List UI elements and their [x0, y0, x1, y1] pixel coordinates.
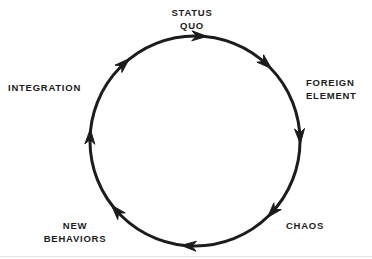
node-label-foreign-element: FOREIGN ELEMENT — [306, 77, 372, 102]
bottom-divider — [0, 256, 372, 257]
node-label-status-quo: STATUS QUO — [147, 7, 237, 32]
node-label-integration: INTEGRATION — [8, 82, 108, 95]
node-label-chaos: CHAOS — [286, 220, 356, 233]
change-cycle-diagram: STATUS QUO FOREIGN ELEMENT CHAOS NEW BEH… — [0, 0, 372, 259]
arrowhead-group — [85, 31, 305, 251]
node-label-new-behaviors: NEW BEHAVIORS — [22, 220, 128, 245]
